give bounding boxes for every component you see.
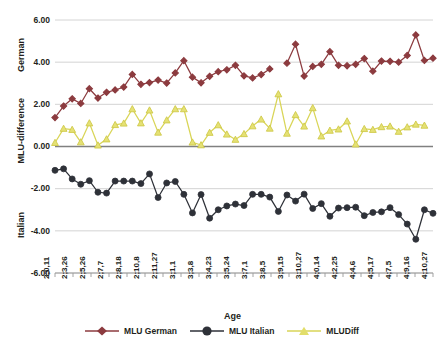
data-point (292, 111, 299, 117)
data-point (370, 209, 376, 215)
legend-marker-triangle (287, 325, 321, 337)
data-point (250, 191, 256, 197)
data-point (249, 75, 255, 81)
data-point (146, 80, 152, 86)
x-tick-label: 4;7,5 (384, 261, 393, 279)
data-point (284, 192, 290, 198)
legend-marker-circle (190, 325, 224, 337)
data-point (181, 191, 187, 197)
data-point (112, 87, 118, 93)
data-point (284, 60, 290, 66)
x-tick-label: 2;5,26 (78, 256, 87, 279)
x-tick-label: 2;3,26 (60, 256, 69, 279)
data-point (86, 178, 92, 184)
data-point (104, 190, 110, 196)
x-tick-label: 3;3,8 (186, 261, 195, 279)
data-point (120, 120, 127, 126)
x-axis-title: Age (224, 311, 241, 321)
x-tick-label: 3;9,15 (276, 256, 285, 279)
data-point (52, 139, 59, 145)
data-point (352, 141, 359, 147)
x-tick-label: 2;8,18 (114, 256, 123, 279)
data-point (275, 91, 282, 97)
data-point (387, 58, 393, 64)
data-point (78, 181, 84, 187)
data-point (309, 105, 316, 111)
data-point (267, 194, 273, 200)
x-tick-label: 4;0,14 (312, 256, 321, 279)
data-point (189, 210, 195, 216)
data-point (413, 32, 419, 38)
data-point (430, 210, 436, 216)
x-tick-label: 3;8,5 (258, 261, 267, 279)
legend-item-mlu-italian[interactable]: MLU Italian (190, 325, 274, 337)
legend-label-mlu-german: MLU German (124, 326, 177, 336)
data-point (52, 167, 58, 173)
data-point (207, 215, 213, 221)
data-point (395, 128, 402, 134)
x-tick-label: 3;7,1 (240, 261, 249, 279)
legend-label-mlu-italian: MLU Italian (229, 326, 274, 336)
x-tick-label: 3;10,27 (294, 252, 303, 279)
data-point (413, 236, 419, 242)
x-tick-label: 3;4,23 (204, 256, 213, 279)
data-point (232, 201, 238, 207)
data-point (421, 57, 427, 63)
x-tick-label: 2;10,8 (132, 256, 141, 279)
x-tick-label: 4;2,25 (330, 256, 339, 279)
data-point (318, 201, 324, 207)
data-point (421, 207, 427, 213)
data-point (86, 120, 93, 126)
data-point (344, 205, 350, 211)
data-point (310, 205, 316, 211)
data-point (215, 207, 221, 213)
data-point (224, 67, 230, 73)
x-tick-label: 3;1,1 (168, 261, 177, 279)
x-tick-label: 4;9,16 (402, 256, 411, 279)
legend-item-mlu-german[interactable]: MLU German (85, 325, 177, 337)
plot-area (0, 0, 444, 349)
x-tick-label: 2;0,11 (42, 257, 51, 279)
data-point (224, 203, 230, 209)
data-point (327, 213, 333, 219)
data-point (138, 181, 144, 187)
data-point (344, 118, 351, 124)
data-point (164, 180, 170, 186)
data-point (95, 189, 101, 195)
x-tick-label: 4;10,27 (420, 252, 429, 279)
data-point (215, 69, 221, 75)
data-point (121, 178, 127, 184)
data-point (215, 122, 222, 128)
data-point (103, 136, 110, 142)
data-point (155, 195, 161, 201)
x-tick-label: 4;4,6 (348, 261, 357, 279)
data-point (146, 107, 153, 113)
chart-legend: MLU German MLU Italian MLUDiff (0, 325, 444, 337)
data-point (396, 212, 402, 218)
data-point (378, 209, 384, 215)
data-point (336, 205, 342, 211)
data-point (198, 192, 204, 198)
x-tick-label: 4;5,17 (366, 256, 375, 279)
data-point (172, 178, 178, 184)
data-point (318, 133, 325, 139)
data-point (387, 205, 393, 211)
data-point (69, 176, 75, 182)
series-line (287, 35, 433, 76)
data-point (129, 178, 135, 184)
data-point (353, 204, 359, 210)
data-point (361, 213, 367, 219)
series-mlu-german (52, 32, 436, 121)
data-point (258, 191, 264, 197)
data-point (293, 198, 299, 204)
data-point (129, 106, 136, 112)
series-mludiff (52, 91, 428, 148)
legend-item-mludiff[interactable]: MLUDiff (287, 325, 359, 337)
legend-label-mludiff: MLUDiff (326, 326, 359, 336)
x-tick-label: 2;11,27 (150, 252, 159, 279)
data-point (147, 171, 153, 177)
chart-root: German MLU-difference Italian 6.00 4.00 … (0, 0, 444, 349)
data-point (404, 221, 410, 227)
data-point (335, 62, 341, 68)
data-point (95, 142, 102, 148)
